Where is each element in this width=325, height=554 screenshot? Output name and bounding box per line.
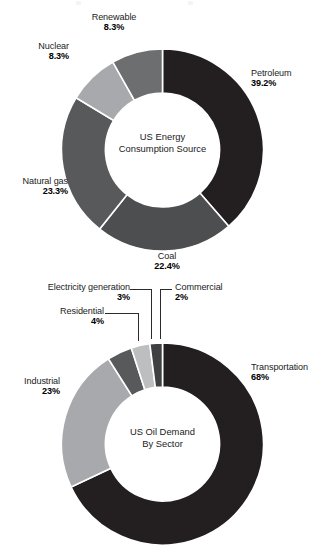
chart-us-oil-demand-by-sector: US Oil Demand By Sector Electricity gene…	[0, 278, 325, 554]
slice-label-petroleum: Petroleum 39.2%	[251, 68, 292, 88]
center-caption-line-1: US Energy	[112, 131, 213, 143]
leader-line-residential-v	[138, 313, 139, 341]
center-caption-line-2: By Sector	[111, 438, 214, 450]
slice-label-residential: Residential 4%	[40, 306, 104, 326]
leader-line-commercial-h	[160, 289, 172, 290]
center-caption-line-2: Consumption Source	[112, 143, 213, 155]
donut-center-caption-energy: US Energy Consumption Source	[112, 131, 213, 155]
slice-label-nuclear-value: 8.3%	[22, 51, 69, 61]
leader-line-electricity-generation-v	[151, 289, 152, 339]
slice-label-industrial: Industrial 23%	[4, 376, 60, 396]
slice-label-natural-gas: Natural gas 23.3%	[6, 176, 68, 196]
leader-line-residential-h	[105, 313, 139, 314]
slice-label-industrial-value: 23%	[4, 386, 60, 396]
leader-line-electricity-generation-h	[130, 289, 152, 290]
slice-label-residential-value: 4%	[40, 316, 104, 326]
slice-label-petroleum-name: Petroleum	[251, 68, 292, 78]
slice-label-nuclear: Nuclear 8.3%	[22, 41, 69, 61]
slice-label-commercial-value: 2%	[175, 292, 223, 302]
donut-center-caption-oil: US Oil Demand By Sector	[111, 426, 214, 450]
slice-label-coal-name: Coal	[143, 251, 191, 261]
slice-label-renewable-name: Renewable	[80, 12, 148, 22]
center-caption-line-1: US Oil Demand	[111, 426, 214, 438]
slice-label-petroleum-value: 39.2%	[251, 78, 292, 88]
slice-label-electricity-generation-name: Electricity generation	[22, 282, 130, 292]
slice-label-electricity-generation: Electricity generation 3%	[22, 282, 130, 302]
slice-label-nuclear-name: Nuclear	[22, 41, 69, 51]
slice-label-industrial-name: Industrial	[4, 376, 60, 386]
slice-label-coal-value: 22.4%	[143, 261, 191, 271]
slice-label-renewable-value: 8.3%	[80, 22, 148, 32]
slice-label-transportation-value: 68%	[251, 372, 308, 382]
chart-us-energy-consumption-source: US Energy Consumption Source Petroleum 3…	[0, 0, 325, 280]
slice-label-renewable: Renewable 8.3%	[80, 12, 148, 32]
slice-label-commercial-name: Commercial	[175, 282, 223, 292]
slice-label-natural-gas-value: 23.3%	[6, 186, 68, 196]
slice-label-commercial: Commercial 2%	[175, 282, 223, 302]
energy-charts-figure: US Energy Consumption Source Petroleum 3…	[0, 0, 325, 554]
slice-label-transportation: Transportation 68%	[251, 362, 308, 382]
slice-label-residential-name: Residential	[40, 306, 104, 316]
slice-label-coal: Coal 22.4%	[143, 251, 191, 271]
slice-label-transportation-name: Transportation	[251, 362, 308, 372]
slice-label-electricity-generation-value: 3%	[22, 292, 130, 302]
leader-line-commercial-v	[160, 289, 161, 339]
slice-label-natural-gas-name: Natural gas	[6, 176, 68, 186]
